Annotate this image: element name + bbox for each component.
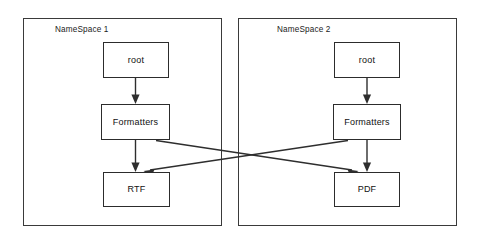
- edge-formatters1-rtf: [131, 140, 139, 172]
- edge-formatters2-rtf: [144, 141, 349, 177]
- node-pdf-label: PDF: [358, 184, 377, 195]
- diagram-canvas: NameSpace 1 NameSpace 2: [0, 0, 480, 242]
- edge-formatters2-pdf: [363, 140, 371, 172]
- node-formatters-2-label: Formatters: [344, 117, 390, 128]
- node-formatters-2[interactable]: Formatters: [333, 104, 401, 140]
- node-rtf-label: RTF: [128, 184, 146, 195]
- node-formatters-1-label: Formatters: [113, 117, 159, 128]
- edge-root1-formatters1: [131, 78, 139, 104]
- node-root-2-label: root: [359, 55, 375, 66]
- node-root-2[interactable]: root: [334, 42, 400, 78]
- edge-formatters1-pdf: [156, 141, 359, 177]
- node-rtf[interactable]: RTF: [103, 172, 170, 207]
- edge-layer: [0, 0, 480, 242]
- node-formatters-1[interactable]: Formatters: [101, 104, 170, 140]
- node-root-1[interactable]: root: [103, 42, 169, 78]
- node-root-1-label: root: [128, 55, 144, 66]
- edge-root2-formatters2: [363, 78, 371, 104]
- node-pdf[interactable]: PDF: [334, 172, 400, 207]
